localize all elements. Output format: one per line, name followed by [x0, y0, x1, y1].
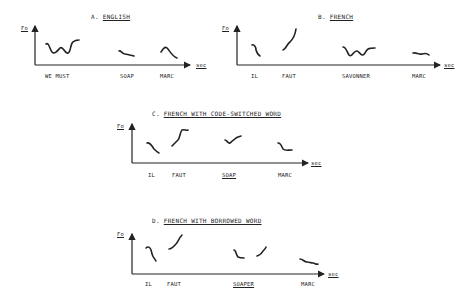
panel-c-word-3: SOAP — [222, 172, 236, 178]
panel-d-axes — [132, 234, 324, 274]
panel-a-contours — [46, 40, 177, 58]
panel-c-word-1: IL — [148, 172, 155, 178]
panel-a-word-3: MARC — [160, 73, 174, 79]
panel-a-word-2: SOAP — [120, 73, 134, 79]
panel-b-y-axis-label: Fo — [222, 25, 229, 31]
panel-c-axes — [132, 124, 308, 163]
diagram-canvas — [0, 0, 476, 300]
panel-b-axes — [237, 26, 440, 65]
panel-b-x-axis-label: sec — [444, 62, 455, 68]
panel-b-word-1: IL — [251, 73, 258, 79]
panel-d-x-axis-label: sec — [328, 271, 339, 277]
panel-c-word-2: FAUT — [172, 172, 186, 178]
panel-b-contours — [252, 29, 429, 56]
panel-c-x-axis-label: sec — [311, 160, 322, 166]
panel-c-contours — [147, 130, 292, 153]
panel-d-word-2: FAUT — [167, 281, 181, 287]
panel-b-title: B. FRENCH — [318, 13, 353, 20]
panel-a-axes — [35, 26, 190, 65]
panel-d-word-3: SOAPER — [233, 281, 254, 287]
panel-b-title-text: FRENCH — [330, 13, 353, 20]
panel-c-title: C. FRENCH WITH CODE-SWITCHED WORD — [152, 110, 281, 117]
panel-a-prefix: A. — [91, 13, 99, 20]
panel-c-title-text: FRENCH WITH CODE-SWITCHED WORD — [164, 110, 281, 117]
panel-d-word-1: IL — [145, 281, 152, 287]
panel-d-contours — [146, 235, 318, 264]
panel-b-word-4: MARC — [412, 73, 426, 79]
panel-d-word-4: MARC — [301, 281, 315, 287]
panel-b-word-3: SAVONNER — [342, 73, 370, 79]
panel-d-title-text: FRENCH WITH BORROWED WORD — [164, 217, 262, 224]
panel-a-title-text: ENGLISH — [103, 13, 130, 20]
panel-b-word-2: FAUT — [282, 73, 296, 79]
panel-c-y-axis-label: Fo — [117, 123, 124, 129]
panel-c-word-4: MARC — [278, 172, 292, 178]
panel-a-x-axis-label: sec — [196, 62, 207, 68]
panel-b-prefix: B. — [318, 13, 326, 20]
panel-a-y-axis-label: Fo — [21, 25, 28, 31]
panel-a-word-1: WE MUST — [45, 73, 70, 79]
panel-d-title: D. FRENCH WITH BORROWED WORD — [152, 217, 262, 224]
panel-d-prefix: D. — [152, 217, 160, 224]
panel-d-y-axis-label: Fo — [117, 231, 124, 237]
panel-a-title: A. ENGLISH — [91, 13, 130, 20]
panel-c-prefix: C. — [152, 110, 160, 117]
